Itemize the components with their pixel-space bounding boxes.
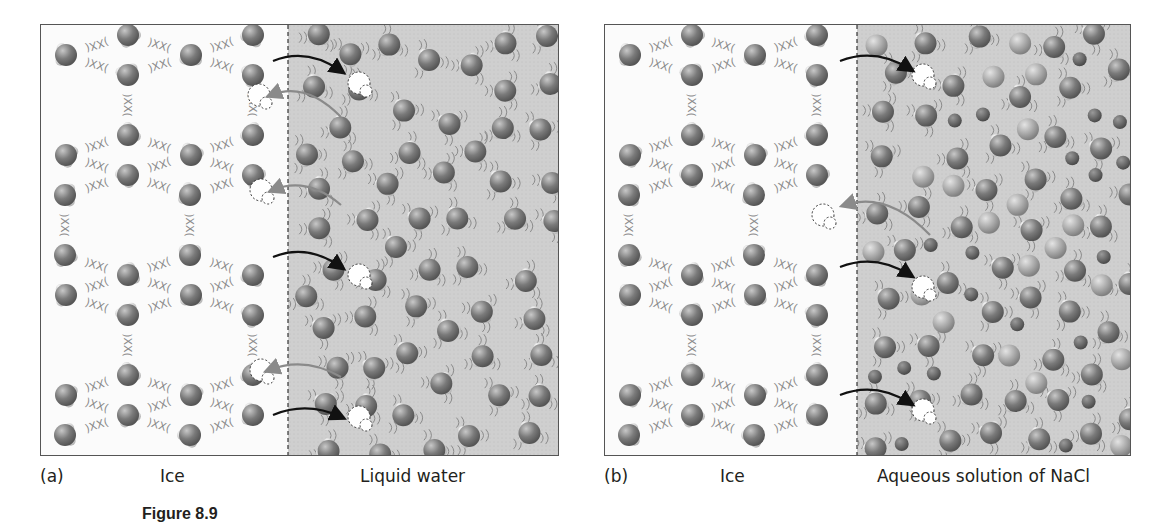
svg-text:)XX(: )XX( (183, 213, 196, 237)
svg-text:)XX(: )XX( (810, 93, 823, 117)
panel-b-ice-label: Ice (720, 466, 745, 486)
svg-text:)XX(: )XX( (810, 333, 823, 357)
svg-text:)XX(: )XX( (685, 333, 698, 357)
svg-text:)XX(: )XX( (685, 93, 698, 117)
panel-b-solution-label: Aqueous solution of NaCl (877, 466, 1090, 486)
panel-a-tag: (a) (40, 466, 64, 486)
panel-b-tag: (b) (604, 466, 628, 486)
panel-a-ice-liquid-water: )XX()XX()XX()XX()XX()XX()XX()XX()XX()XX(… (40, 24, 559, 456)
panel-a-ice-label: Ice (160, 466, 185, 486)
svg-text:)XX(: )XX( (747, 213, 760, 237)
panel-a-liquid-label: Liquid water (360, 466, 465, 486)
svg-text:)XX(: )XX( (622, 213, 635, 237)
figure-caption: Figure 8.9 (142, 505, 218, 523)
diagram-ice-nacl-solution: )XX()XX()XX()XX()XX()XX()XX()XX()XX()XX(… (605, 25, 1131, 456)
diagram-ice-liquid-water: )XX()XX()XX()XX()XX()XX()XX()XX()XX()XX(… (41, 25, 559, 456)
svg-text:)XX(: )XX( (58, 213, 71, 237)
panel-b-ice-nacl-solution: )XX()XX()XX()XX()XX()XX()XX()XX()XX()XX(… (604, 24, 1131, 456)
svg-text:)XX(: )XX( (121, 93, 134, 117)
svg-text:)XX(: )XX( (121, 333, 134, 357)
svg-text:)XX(: )XX( (246, 333, 259, 357)
